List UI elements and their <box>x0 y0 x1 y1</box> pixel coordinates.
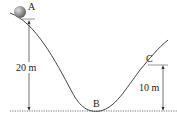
point-c-label: C <box>146 53 153 64</box>
height-a-label: 20 m <box>16 62 37 73</box>
point-a-label: A <box>28 1 36 12</box>
roller-coaster-diagram: 20 m A B C 10 m <box>0 0 177 117</box>
point-b-label: B <box>93 98 100 109</box>
arrow-head-down-icon <box>28 107 31 111</box>
arrow-head-up-icon <box>162 65 165 69</box>
ball <box>14 6 26 18</box>
arrow-head-up-icon <box>28 20 31 24</box>
arrow-head-down-icon <box>162 107 165 111</box>
height-c-label: 10 m <box>139 82 160 93</box>
